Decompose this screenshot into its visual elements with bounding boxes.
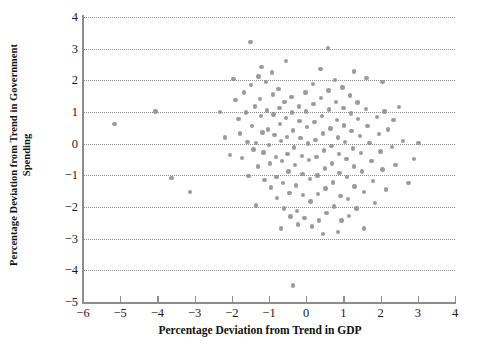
data-point bbox=[260, 130, 264, 134]
data-point bbox=[345, 175, 349, 179]
data-point bbox=[292, 145, 296, 149]
data-point bbox=[307, 158, 311, 162]
data-point bbox=[314, 155, 318, 159]
data-point bbox=[265, 108, 269, 112]
data-point bbox=[339, 218, 343, 222]
x-tick-mark bbox=[343, 296, 344, 303]
x-tick-label: −3 bbox=[180, 306, 210, 321]
data-point bbox=[311, 102, 315, 106]
data-point bbox=[311, 82, 315, 86]
data-point bbox=[406, 181, 410, 185]
data-point bbox=[378, 149, 382, 153]
y-tick-label: −3 bbox=[54, 231, 78, 246]
data-point bbox=[359, 151, 363, 155]
data-point bbox=[259, 65, 263, 69]
data-point bbox=[412, 157, 416, 161]
gridline-y-3 bbox=[83, 49, 455, 50]
x-tick-label: 2 bbox=[366, 306, 396, 321]
data-point bbox=[303, 90, 307, 94]
data-point bbox=[294, 183, 298, 187]
data-point bbox=[253, 104, 257, 108]
data-point bbox=[267, 143, 271, 147]
data-point bbox=[401, 139, 405, 143]
data-point bbox=[322, 148, 326, 152]
data-point bbox=[282, 100, 286, 104]
data-point bbox=[249, 83, 253, 87]
gridline-y-1 bbox=[83, 112, 455, 113]
x-tick-label: −6 bbox=[68, 306, 98, 321]
x-tick-mark bbox=[157, 296, 158, 303]
y-tick-label: 1 bbox=[54, 105, 78, 120]
data-point bbox=[288, 214, 292, 218]
data-point bbox=[269, 185, 273, 189]
data-point bbox=[261, 150, 265, 154]
x-tick-label: 1 bbox=[328, 306, 358, 321]
y-axis-label-line2: Spending bbox=[20, 44, 33, 266]
data-point bbox=[188, 190, 192, 194]
data-point bbox=[367, 141, 371, 145]
data-point bbox=[321, 232, 325, 236]
y-axis-label: Percentage Deviation from Trend in Gover… bbox=[7, 44, 33, 266]
data-point bbox=[342, 123, 346, 127]
data-point bbox=[358, 134, 362, 138]
data-point bbox=[393, 163, 397, 167]
data-point bbox=[286, 169, 290, 173]
data-point bbox=[298, 136, 302, 140]
data-point bbox=[371, 179, 375, 183]
data-point bbox=[276, 87, 280, 91]
gridline-y--4 bbox=[83, 270, 455, 271]
data-point bbox=[352, 69, 356, 73]
gridline-y-4 bbox=[83, 17, 455, 18]
data-point bbox=[282, 206, 286, 210]
data-point bbox=[291, 283, 295, 287]
data-point bbox=[275, 196, 279, 200]
data-point bbox=[223, 135, 227, 139]
x-tick-label: −4 bbox=[142, 306, 172, 321]
data-point bbox=[284, 59, 288, 63]
y-axis-tick-labels: 43210−1−2−3−4−5 bbox=[50, 0, 78, 347]
data-point bbox=[416, 141, 420, 145]
data-point bbox=[364, 76, 368, 80]
data-point bbox=[337, 152, 341, 156]
gridline-y--1 bbox=[83, 175, 455, 176]
data-point bbox=[297, 119, 301, 123]
data-point bbox=[362, 226, 366, 230]
x-tick-mark bbox=[83, 296, 84, 303]
data-point bbox=[218, 110, 222, 114]
data-point bbox=[262, 178, 266, 182]
data-point bbox=[287, 191, 291, 195]
data-point bbox=[304, 109, 308, 113]
data-point bbox=[349, 111, 353, 115]
data-point bbox=[302, 216, 306, 220]
data-point bbox=[169, 176, 173, 180]
data-point bbox=[335, 118, 339, 122]
data-point bbox=[272, 133, 276, 137]
data-point bbox=[349, 129, 353, 133]
y-tick-label: −4 bbox=[54, 263, 78, 278]
data-point bbox=[334, 100, 338, 104]
data-point bbox=[391, 118, 395, 122]
data-point bbox=[254, 203, 258, 207]
data-point bbox=[354, 206, 358, 210]
x-tick-mark bbox=[455, 296, 456, 303]
x-tick-mark bbox=[381, 296, 382, 303]
data-point bbox=[274, 175, 278, 179]
data-point bbox=[328, 126, 332, 130]
data-point bbox=[338, 194, 342, 198]
data-point bbox=[301, 193, 305, 197]
data-point bbox=[380, 167, 384, 171]
data-point bbox=[300, 172, 304, 176]
data-point bbox=[295, 209, 299, 213]
data-point bbox=[296, 222, 300, 226]
gridline-y--2 bbox=[83, 207, 455, 208]
x-tick-mark bbox=[269, 296, 270, 303]
data-point bbox=[317, 218, 321, 222]
gridline-y-2 bbox=[83, 80, 455, 81]
data-point bbox=[268, 161, 272, 165]
x-tick-mark bbox=[232, 296, 233, 303]
y-tick-label: 3 bbox=[54, 41, 78, 56]
data-point bbox=[341, 106, 345, 110]
data-point bbox=[320, 114, 324, 118]
data-point bbox=[231, 77, 235, 81]
y-tick-label: 0 bbox=[54, 136, 78, 151]
